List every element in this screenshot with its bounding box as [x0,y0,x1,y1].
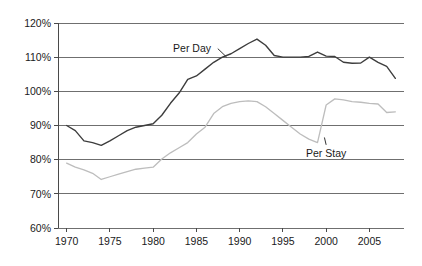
y-tick-label-90: 90% [30,119,51,131]
y-tick-label-110: 110% [25,51,51,63]
chart-background [0,0,422,266]
y-tick-label-60: 60% [30,222,51,234]
x-tick-label-2000: 2000 [314,235,338,247]
x-tick-label-1990: 1990 [228,235,252,247]
x-tick-label-2005: 2005 [358,235,382,247]
y-tick-label-100: 100% [24,85,51,97]
x-tick-label-1980: 1980 [141,235,165,247]
x-tick-label-1970: 1970 [55,235,79,247]
chart-container: 60%70%80%90%100%110%120% 197019751980198… [0,0,422,266]
line-chart: 60%70%80%90%100%110%120% 197019751980198… [0,0,422,266]
annotation-label-per-day: Per Day [173,42,212,54]
annotation-label-per-stay: Per Stay [306,147,347,159]
y-tick-label-80: 80% [30,153,51,165]
y-tick-label-120: 120% [24,17,51,29]
x-tick-label-1975: 1975 [98,235,122,247]
x-tick-label-1985: 1985 [185,235,209,247]
y-tick-label-70: 70% [30,188,51,200]
x-tick-label-1995: 1995 [271,235,295,247]
